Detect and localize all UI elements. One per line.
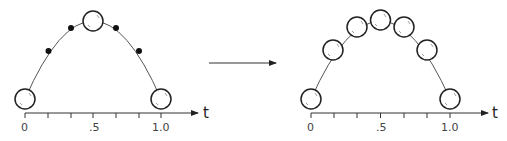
inbetween-dot [46, 48, 52, 54]
left-panel-keyframes: 0 .5 1.0 t [15, 11, 209, 134]
ball-icon [323, 40, 343, 60]
ball-icon [347, 17, 367, 37]
right-axis-label: t [492, 104, 498, 122]
ball-icon [151, 89, 171, 109]
left-axis-ticks [25, 113, 161, 118]
ball-icon [83, 11, 103, 31]
inbetween-dot [68, 25, 74, 31]
inbetween-dot [136, 48, 142, 54]
right-tick-label-half: .5 [376, 121, 387, 134]
right-tick-label-0: 0 [307, 121, 314, 134]
ball-icon [15, 89, 35, 109]
ball-icon [371, 10, 391, 30]
left-keyframe-balls [15, 11, 171, 109]
left-trajectory-curve [25, 21, 161, 99]
ball-icon [394, 17, 414, 37]
ball-icon [440, 89, 460, 109]
ball-icon [301, 89, 321, 109]
right-axis-ticks [311, 113, 450, 118]
right-tick-label-1: 1.0 [441, 121, 459, 134]
right-panel-inbetweens: 0 .5 1.0 t [301, 10, 498, 134]
left-axis-label: t [203, 104, 209, 122]
left-tick-label-half: .5 [89, 121, 100, 134]
inbetween-dot [113, 25, 119, 31]
interpolation-diagram: 0 .5 1.0 t [0, 0, 507, 141]
left-tick-label-0: 0 [21, 121, 28, 134]
ball-icon [417, 40, 437, 60]
right-balls [301, 10, 460, 109]
left-tick-label-1: 1.0 [152, 121, 170, 134]
